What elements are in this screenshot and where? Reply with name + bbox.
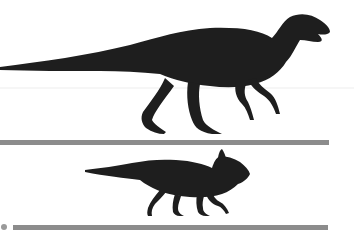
scale-bar-marker-dot: [1, 224, 7, 230]
scale-bar-upper: [0, 140, 329, 145]
large-hadrosaur-silhouette: [0, 14, 330, 134]
scale-bar-lower: [13, 225, 328, 230]
figure-canvas: [0, 0, 354, 235]
small-ceratopsian-silhouette: [85, 149, 250, 216]
